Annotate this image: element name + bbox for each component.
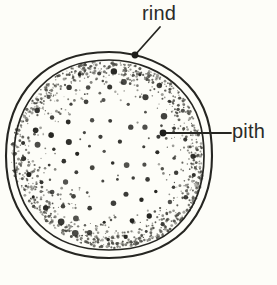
rind-leader-dot bbox=[132, 52, 139, 59]
rind-leader-line bbox=[135, 27, 160, 55]
cross-section-drawing bbox=[0, 0, 277, 285]
label-rind: rind bbox=[142, 3, 176, 23]
pith-leader-dot bbox=[160, 130, 167, 137]
label-pith: pith bbox=[232, 121, 265, 141]
cross-section-figure: rind pith bbox=[0, 0, 277, 285]
